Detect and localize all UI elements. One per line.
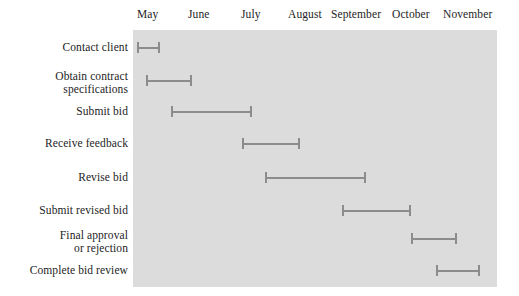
- bar-span-line: [411, 238, 457, 240]
- gantt-chart: May June July August September October N…: [0, 0, 519, 296]
- gantt-bar-submit-bid: [171, 106, 252, 117]
- gantt-bar-submit-revised-bid: [342, 205, 411, 216]
- task-label-obtain-contract: Obtain contract specifications: [0, 70, 128, 96]
- task-label-complete-bid-review: Complete bid review: [0, 264, 128, 277]
- month-label-august: August: [288, 8, 322, 20]
- task-label-revise-bid: Revise bid: [0, 171, 128, 184]
- bar-end-cap: [190, 75, 192, 86]
- bar-end-cap: [478, 265, 480, 276]
- chart-plot-area: [133, 30, 497, 287]
- bar-span-line: [342, 210, 411, 212]
- task-label-receive-feedback: Receive feedback: [0, 137, 128, 150]
- bar-span-line: [146, 80, 192, 82]
- bar-end-cap: [364, 172, 366, 183]
- month-label-september: September: [331, 8, 381, 20]
- month-label-november: November: [443, 8, 492, 20]
- task-label-final-approval: Final approval or rejection: [0, 229, 128, 255]
- gantt-bar-final-approval: [411, 233, 457, 244]
- month-label-may: May: [137, 8, 158, 20]
- task-label-submit-bid: Submit bid: [0, 105, 128, 118]
- bar-span-line: [137, 47, 160, 49]
- task-label-column: Contact client Obtain contract specifica…: [0, 0, 128, 296]
- bar-span-line: [171, 111, 252, 113]
- bar-end-cap: [158, 42, 160, 53]
- month-label-june: June: [188, 8, 209, 20]
- gantt-bar-obtain-contract: [146, 75, 192, 86]
- bar-end-cap: [250, 106, 252, 117]
- gantt-bar-contact-client: [137, 42, 160, 53]
- bar-span-line: [265, 177, 366, 179]
- task-label-submit-revised-bid: Submit revised bid: [0, 204, 128, 217]
- gantt-bar-complete-bid-review: [436, 265, 480, 276]
- bar-end-cap: [298, 138, 300, 149]
- month-label-july: July: [241, 8, 261, 20]
- bar-span-line: [436, 270, 480, 272]
- bar-end-cap: [455, 233, 457, 244]
- gantt-bar-receive-feedback: [242, 138, 300, 149]
- month-label-october: October: [392, 8, 430, 20]
- task-label-contact-client: Contact client: [0, 41, 128, 54]
- bar-span-line: [242, 143, 300, 145]
- gantt-bar-revise-bid: [265, 172, 366, 183]
- bar-end-cap: [409, 205, 411, 216]
